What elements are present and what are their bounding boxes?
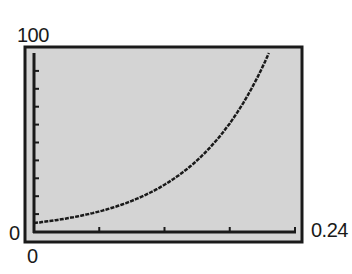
xmax-label: 0.24 [311,220,348,240]
ymax-label: 100 [17,25,49,45]
xmin-label: 0 [27,246,38,266]
calculator-graph-screen [0,0,352,274]
screen-frame [25,47,302,242]
ymin-label: 0 [9,223,20,243]
